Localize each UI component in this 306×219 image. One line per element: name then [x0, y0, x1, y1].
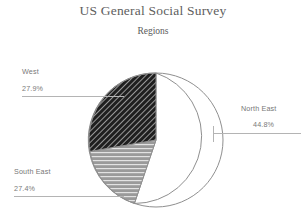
- leader-tick-north-east: [213, 126, 214, 142]
- pie-chart-figure: US General Social Survey Regions West 27…: [0, 0, 306, 219]
- pie-percent-north-east: 44.8%: [253, 120, 274, 129]
- pie-label-south-east: South East: [14, 167, 51, 176]
- pie-label-west: West: [22, 67, 39, 76]
- pie-label-north-east: North East: [241, 104, 276, 113]
- leader-line-west: [22, 96, 124, 97]
- leader-line-south-east: [14, 196, 124, 197]
- pie-percent-west: 27.9%: [22, 84, 43, 93]
- pie-slice-west: [88, 73, 156, 152]
- leader-line-north-east: [213, 133, 301, 134]
- pie-percent-south-east: 27.4%: [14, 184, 35, 193]
